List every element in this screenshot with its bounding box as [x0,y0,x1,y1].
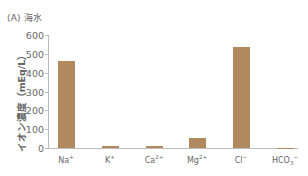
x-axis [48,148,298,149]
bar-mg2+ [189,138,206,148]
y-tick-label: 0 [38,143,44,154]
y-tick [45,54,48,55]
bar-cl- [233,47,250,148]
y-tick-label: 200 [26,105,44,116]
bar-ca2+ [146,146,163,148]
x-tick-label: HCO3− [265,154,305,166]
bar-k+ [102,146,119,148]
chart-title: (A) 海水 [7,11,42,24]
y-tick [45,92,48,93]
y-tick-label: 100 [26,124,44,135]
y-tick-label: 400 [26,67,44,78]
bar-na+ [58,61,75,148]
x-tick-label: Ca2+ [134,154,174,165]
y-tick [45,129,48,130]
x-tick-label: Mg2+ [177,154,217,165]
y-tick-label: 600 [26,30,44,41]
plot-area: 0100200300400500600 [48,35,298,149]
y-axis-label: イオン濃度（mEq/L） [14,46,28,156]
y-tick [45,148,48,149]
x-tick-label: Cl− [221,154,261,165]
y-tick-label: 300 [26,86,44,97]
y-tick [45,110,48,111]
y-tick-label: 500 [26,48,44,59]
y-tick [45,35,48,36]
x-tick-label: Na+ [46,154,86,165]
y-axis [48,35,49,149]
y-tick [45,73,48,74]
x-tick-label: K+ [90,154,130,165]
